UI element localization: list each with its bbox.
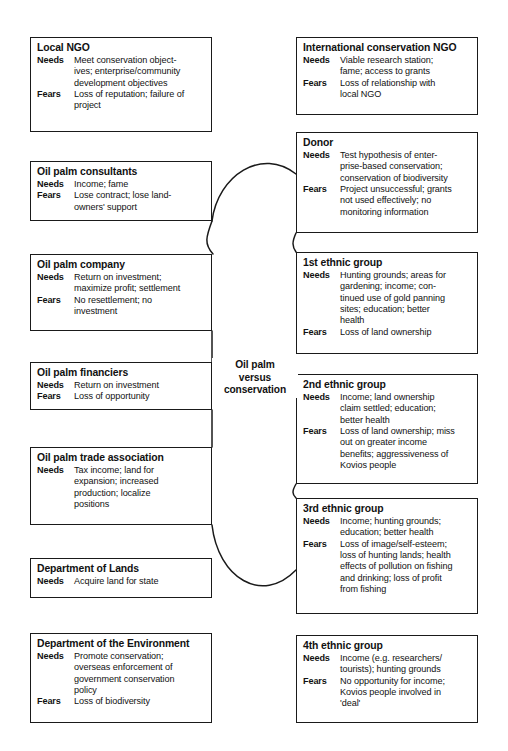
fears-label: Fears — [303, 78, 340, 89]
stakeholder-row-needs: NeedsReturn on investment; maximize prof… — [37, 272, 206, 295]
stakeholder-box-3rd-ethnic-group: 3rd ethnic groupNeedsIncome; hunting gro… — [296, 498, 478, 614]
stakeholder-title: Oil palm trade association — [37, 452, 206, 465]
needs-value: Viable research station; fame; access to… — [340, 55, 472, 78]
fears-label: Fears — [303, 539, 340, 550]
stakeholder-box-1st-ethnic-group: 1st ethnic groupNeedsHunting grounds; ar… — [296, 252, 478, 354]
stakeholder-row-needs: NeedsMeet conservation object- ives; ent… — [37, 55, 206, 89]
needs-label: Needs — [303, 516, 340, 527]
stakeholder-row-needs: NeedsTest hypothesis of enter- prise-bas… — [303, 150, 472, 184]
stakeholder-row-fears: FearsLoss of opportunity — [37, 391, 206, 402]
stakeholder-box-4th-ethnic-group: 4th ethnic groupNeedsIncome (e.g. resear… — [296, 635, 478, 723]
stakeholder-box-oil-palm-consultants: Oil palm consultantsNeedsIncome; fameFea… — [30, 161, 212, 221]
stakeholder-row-needs: NeedsIncome; hunting grounds; education;… — [303, 516, 472, 539]
stakeholder-title: Donor — [303, 137, 472, 150]
stakeholder-rows: NeedsIncome; land ownership claim settle… — [303, 392, 472, 471]
stakeholder-row-fears: FearsLose contract; lose land- owners' s… — [37, 190, 206, 213]
needs-label: Needs — [303, 392, 340, 403]
needs-value: Acquire land for state — [74, 576, 206, 587]
fears-label: Fears — [37, 391, 74, 402]
needs-label: Needs — [37, 465, 74, 476]
stakeholder-title: Oil palm financiers — [37, 367, 206, 380]
needs-label: Needs — [303, 55, 340, 66]
stakeholder-box-local-ngo: Local NGONeedsMeet conservation object- … — [30, 37, 212, 132]
stakeholder-row-needs: NeedsReturn on investment — [37, 380, 206, 391]
fears-value: No opportunity for income; Kovios people… — [340, 676, 472, 710]
stakeholder-row-needs: NeedsHunting grounds; areas for gardenin… — [303, 270, 472, 327]
stakeholder-rows: NeedsReturn on investment; maximize prof… — [37, 272, 206, 317]
stakeholder-title: Oil palm company — [37, 259, 206, 272]
stakeholder-row-needs: NeedsIncome; fame — [37, 179, 206, 190]
stakeholder-title: Department of the Environment — [37, 638, 206, 651]
needs-label: Needs — [37, 55, 74, 66]
fears-label: Fears — [303, 426, 340, 437]
stakeholder-title: International conservation NGO — [303, 42, 472, 55]
stakeholder-row-fears: FearsLoss of land ownership — [303, 327, 472, 338]
connector-donor-to-1st-ethnic — [293, 233, 296, 252]
needs-value: Income; land ownership claim settled; ed… — [340, 392, 472, 426]
fears-value: No resettlement; no investment — [74, 295, 206, 318]
stakeholder-row-fears: FearsLoss of reputation; failure of proj… — [37, 89, 206, 112]
connector-bottom-arc — [212, 525, 296, 586]
fears-value: Loss of reputation; failure of project — [74, 89, 206, 112]
needs-label: Needs — [303, 270, 340, 281]
fears-label: Fears — [303, 676, 340, 687]
fears-label: Fears — [303, 184, 340, 195]
needs-label: Needs — [37, 651, 74, 662]
stakeholder-row-fears: FearsNo opportunity for income; Kovios p… — [303, 676, 472, 710]
stakeholder-row-needs: NeedsPromote conservation; overseas enfo… — [37, 651, 206, 696]
stakeholder-rows: NeedsIncome; fameFearsLose contract; los… — [37, 179, 206, 213]
stakeholder-rows: NeedsMeet conservation object- ives; ent… — [37, 55, 206, 112]
stakeholder-rows: NeedsReturn on investmentFearsLoss of op… — [37, 380, 206, 403]
stakeholder-rows: NeedsTax income; land for expansion; inc… — [37, 465, 206, 510]
stakeholder-row-needs: NeedsTax income; land for expansion; inc… — [37, 465, 206, 510]
needs-value: Income; hunting grounds; education; bett… — [340, 516, 472, 539]
stakeholder-title: 3rd ethnic group — [303, 503, 472, 516]
stakeholder-box-international-conservation-ngo: International conservation NGONeedsViabl… — [296, 37, 478, 115]
stakeholder-title: 1st ethnic group — [303, 257, 472, 270]
needs-label: Needs — [37, 576, 74, 587]
fears-value: Loss of biodiversity — [74, 696, 206, 707]
stakeholder-box-department-of-the-environment: Department of the EnvironmentNeedsPromot… — [30, 633, 212, 723]
stakeholder-row-needs: NeedsViable research station; fame; acce… — [303, 55, 472, 78]
needs-value: Meet conservation object- ives; enterpri… — [74, 55, 206, 89]
needs-label: Needs — [303, 150, 340, 161]
stakeholder-row-fears: FearsProject unsuccessful; grants not us… — [303, 184, 472, 218]
stakeholder-box-2nd-ethnic-group: 2nd ethnic groupNeedsIncome; land owners… — [296, 374, 478, 484]
stakeholder-rows: NeedsTest hypothesis of enter- prise-bas… — [303, 150, 472, 218]
stakeholder-row-needs: NeedsIncome (e.g. researchers/ tourists)… — [303, 653, 472, 676]
stakeholder-box-oil-palm-financiers: Oil palm financiersNeedsReturn on invest… — [30, 362, 212, 410]
connector-consultants-to-company — [207, 221, 213, 254]
needs-value: Income; fame — [74, 179, 206, 190]
needs-value: Tax income; land for expansion; increase… — [74, 465, 206, 510]
stakeholder-title: 2nd ethnic group — [303, 379, 472, 392]
needs-value: Return on investment — [74, 380, 206, 391]
needs-value: Test hypothesis of enter- prise-based co… — [340, 150, 472, 184]
stakeholder-rows: NeedsAcquire land for state — [37, 576, 206, 587]
needs-label: Needs — [303, 653, 340, 664]
needs-value: Hunting grounds; areas for gardening; in… — [340, 270, 472, 327]
stakeholder-row-fears: FearsLoss of relationship with local NGO — [303, 78, 472, 101]
stakeholder-title: Local NGO — [37, 42, 206, 55]
stakeholder-box-oil-palm-trade-association: Oil palm trade associationNeedsTax incom… — [30, 447, 212, 525]
stakeholder-row-fears: FearsLoss of biodiversity — [37, 696, 206, 707]
fears-value: Loss of opportunity — [74, 391, 206, 402]
fears-label: Fears — [37, 190, 74, 201]
stakeholder-row-fears: FearsLoss of image/self-esteem; loss of … — [303, 539, 472, 596]
connector-2nd-to-3rd-ethnic — [293, 484, 296, 498]
stakeholder-row-needs: NeedsAcquire land for state — [37, 576, 206, 587]
stakeholder-row-needs: NeedsIncome; land ownership claim settle… — [303, 392, 472, 426]
needs-label: Needs — [37, 380, 74, 391]
stakeholder-title: 4th ethnic group — [303, 640, 472, 653]
stakeholder-title: Oil palm consultants — [37, 166, 206, 179]
center-label: Oil palm versus conservation — [212, 358, 298, 398]
connector-top-arc — [212, 163, 296, 221]
fears-value: Loss of image/self-esteem; loss of hunti… — [340, 539, 472, 596]
stakeholder-row-fears: FearsNo resettlement; no investment — [37, 295, 206, 318]
stakeholder-rows: NeedsPromote conservation; overseas enfo… — [37, 651, 206, 708]
fears-label: Fears — [37, 696, 74, 707]
needs-value: Income (e.g. researchers/ tourists); hun… — [340, 653, 472, 676]
stakeholder-row-fears: FearsLoss of land ownership; miss out on… — [303, 426, 472, 471]
stakeholder-box-department-of-lands: Department of LandsNeedsAcquire land for… — [30, 558, 212, 598]
stakeholder-title: Department of Lands — [37, 563, 206, 576]
needs-value: Promote conservation; overseas enforceme… — [74, 651, 206, 696]
